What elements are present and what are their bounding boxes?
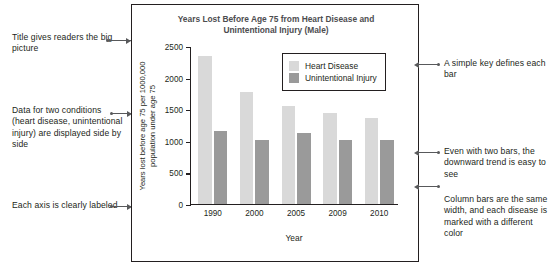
y-axis-tick-mark	[186, 173, 191, 174]
bar-2010-unintentional-injury	[380, 140, 394, 204]
chart-title: Years Lost Before Age 75 from Heart Dise…	[150, 14, 402, 37]
bar-1990-unintentional-injury	[214, 131, 228, 204]
annotation-bar-note: Column bars are the same width, and each…	[444, 194, 550, 239]
bar-2010-heart-disease	[365, 118, 379, 204]
x-axis-tick-label-2009: 2009	[328, 209, 346, 218]
leader-dot-trend-note	[437, 151, 440, 154]
x-axis-tick-label-2000: 2000	[245, 209, 263, 218]
x-axis-tick-label-2005: 2005	[287, 209, 305, 218]
chart-legend: Heart Disease Unintentional Injury	[282, 53, 386, 91]
y-axis-tick-label: 2500	[165, 43, 183, 52]
leader-dot-series-note	[110, 112, 113, 115]
bar-2009-unintentional-injury	[339, 140, 353, 204]
x-axis-title: Year	[190, 233, 398, 243]
annotation-trend-note: Even with two bars, the downward trend i…	[444, 146, 550, 180]
bar-2000-heart-disease	[240, 92, 254, 203]
bar-2005-unintentional-injury	[297, 133, 311, 204]
y-axis-tick-mark	[186, 79, 191, 80]
legend-item-unintentional-injury: Unintentional Injury	[289, 73, 377, 83]
annotation-series-note-text: Data for two conditions (heart disease, …	[12, 105, 122, 149]
arrow-head-trend-note	[414, 150, 419, 156]
annotation-title-note-text: Title gives readers the big picture	[12, 32, 112, 53]
y-axis-line	[190, 47, 191, 205]
legend-swatch-unintentional-injury	[289, 73, 299, 83]
legend-label-heart-disease: Heart Disease	[305, 61, 358, 71]
annotation-axis-note: Each axis is clearly labeled	[12, 200, 124, 211]
x-axis-tick-label-2010: 2010	[370, 209, 388, 218]
leader-dot-axis-note	[110, 205, 113, 208]
y-axis-tick-mark	[186, 47, 191, 48]
bar-2005-heart-disease	[282, 106, 296, 204]
annotation-title-note: Title gives readers the big picture	[12, 32, 120, 55]
y-axis-tick-label: 2000	[165, 74, 183, 83]
arrow-head-bar-note	[414, 184, 419, 190]
annotation-legend-note-text: A simple key defines each bar	[444, 58, 546, 79]
annotation-series-note: Data for two conditions (heart disease, …	[12, 105, 124, 150]
bar-2000-unintentional-injury	[255, 140, 269, 204]
annotation-trend-note-text: Even with two bars, the downward trend i…	[444, 146, 546, 179]
bar-1990-heart-disease	[198, 56, 212, 204]
leader-dot-bar-note	[437, 185, 440, 188]
leader-line-bar-note	[417, 186, 439, 187]
y-axis-title-line-1: Years lost before age 75 per 1000,000	[138, 47, 148, 205]
x-axis-line	[190, 204, 398, 205]
y-axis-tick-mark	[186, 205, 191, 206]
bar-2009-heart-disease	[323, 113, 337, 204]
leader-line-legend-note	[417, 64, 439, 65]
y-axis-tick-label: 1000	[165, 137, 183, 146]
legend-item-heart-disease: Heart Disease	[289, 61, 377, 71]
y-axis-title-line-2: population under age 75	[148, 47, 158, 205]
chart-title-line-1: Years Lost Before Age 75 from Heart Dise…	[150, 14, 402, 25]
arrow-head-legend-note	[414, 62, 419, 68]
annotation-bar-note-text: Column bars are the same width, and each…	[444, 194, 547, 238]
annotation-axis-note-text: Each axis is clearly labeled	[12, 200, 118, 210]
y-axis-tick-label: 500	[169, 169, 183, 178]
chart-title-line-2: Unintentional Injury (Male)	[150, 25, 402, 36]
leader-dot-legend-note	[437, 63, 440, 66]
figure-root: Title gives readers the big picture Data…	[0, 0, 556, 269]
y-axis-tick-label: 1500	[165, 106, 183, 115]
legend-swatch-heart-disease	[289, 61, 299, 71]
x-axis-tick-label-1990: 1990	[204, 209, 222, 218]
y-axis-tick-label: 0	[178, 201, 183, 210]
y-axis-tick-mark	[186, 110, 191, 111]
chart-container: Years Lost Before Age 75 from Heart Dise…	[131, 4, 419, 262]
leader-line-trend-note	[417, 152, 439, 153]
y-axis-tick-mark	[186, 142, 191, 143]
y-axis-title: Years lost before age 75 per 1000,000 po…	[138, 47, 164, 205]
legend-label-unintentional-injury: Unintentional Injury	[305, 73, 377, 83]
annotation-legend-note: A simple key defines each bar	[444, 58, 549, 81]
leader-dot-title-note	[106, 39, 109, 42]
